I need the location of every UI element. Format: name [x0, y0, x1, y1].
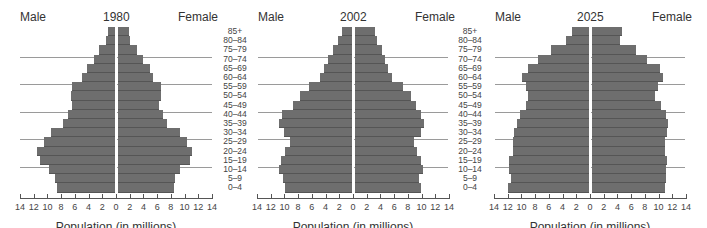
female-bar — [592, 128, 667, 137]
tick-label: 14 — [489, 202, 499, 212]
female-bar — [592, 110, 666, 119]
female-bar — [592, 137, 665, 146]
tick-label: 2 — [601, 202, 606, 212]
male-bar — [528, 91, 589, 100]
tick-label: 10 — [654, 202, 664, 212]
female-bar — [592, 36, 620, 45]
female-bar — [592, 27, 622, 36]
male-bar — [566, 36, 589, 45]
axis-tick — [590, 194, 591, 199]
tick-label: 2 — [574, 202, 579, 212]
tick-label: 0 — [587, 202, 592, 212]
tick-label: 14 — [681, 202, 691, 212]
male-bar — [517, 119, 589, 128]
male-bar — [520, 110, 589, 119]
female-bar — [592, 82, 658, 91]
male-bar — [513, 137, 589, 146]
male-bar — [526, 82, 589, 91]
tick-label: 6 — [546, 202, 551, 212]
x-axis-label: Population (in millions) — [530, 220, 651, 228]
female-bar — [592, 183, 665, 192]
axis-tick — [659, 194, 660, 199]
tick-label: 6 — [629, 202, 634, 212]
tick-label: 12 — [667, 202, 677, 212]
female-bar — [592, 165, 666, 174]
female-label: Female — [652, 10, 692, 24]
male-bar — [511, 174, 589, 183]
panel-title: 2025 — [577, 10, 604, 24]
male-bar — [528, 64, 589, 73]
male-bar — [509, 156, 589, 165]
tick-label: 8 — [642, 202, 647, 212]
tick-label: 10 — [516, 202, 526, 212]
male-bar — [522, 73, 589, 82]
female-bar — [592, 119, 668, 128]
tick-label: 8 — [533, 202, 538, 212]
male-bar — [514, 128, 589, 137]
female-bar — [592, 91, 655, 100]
male-bar — [526, 101, 589, 110]
axis-tick — [521, 194, 522, 199]
axis-tick — [631, 194, 632, 199]
age-group-label: 0–4 — [463, 182, 477, 192]
male-bar — [572, 27, 589, 36]
male-label: Male — [495, 10, 521, 24]
tick-label: 4 — [615, 202, 620, 212]
female-bar — [592, 55, 647, 64]
tick-label: 12 — [503, 202, 513, 212]
axis-tick — [645, 194, 646, 199]
tick-label: 4 — [560, 202, 565, 212]
male-bar — [509, 165, 589, 174]
axis-tick — [686, 194, 687, 199]
male-bar — [538, 55, 589, 64]
axis-tick — [494, 194, 495, 199]
axis-tick — [604, 194, 605, 199]
female-bar — [592, 147, 665, 156]
axis-tick — [617, 194, 618, 199]
male-bar — [551, 45, 589, 54]
male-bar — [508, 183, 589, 192]
center-divider — [589, 26, 591, 194]
female-bar — [592, 156, 667, 165]
female-bar — [592, 64, 660, 73]
female-bar — [592, 174, 666, 183]
male-bar — [513, 147, 589, 156]
axis-tick — [508, 194, 509, 199]
axis-tick — [576, 194, 577, 199]
axis-tick — [535, 194, 536, 199]
axis-tick — [672, 194, 673, 199]
pyramid-panel-2025: Male2025Female141210864202468101214Popul… — [0, 0, 707, 228]
axis-tick — [563, 194, 564, 199]
female-bar — [592, 73, 663, 82]
female-bar — [592, 45, 636, 54]
age-group-label: 0–4 — [228, 182, 242, 192]
female-bar — [592, 101, 661, 110]
axis-tick — [549, 194, 550, 199]
